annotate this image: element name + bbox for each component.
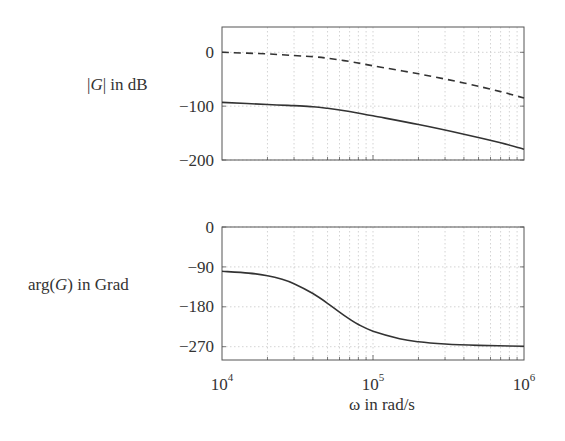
xtick-exponent: 4 bbox=[228, 371, 234, 383]
xtick-base: 10 bbox=[513, 375, 530, 394]
magnitude-solid-curve bbox=[222, 102, 524, 149]
ytick-bottom-minus180: −180 bbox=[179, 297, 214, 316]
ytick-top-minus200: −200 bbox=[179, 151, 214, 170]
magnitude-grid bbox=[222, 27, 524, 160]
xtick-1e4: 104 bbox=[211, 371, 234, 394]
ylabel-unit: in dB bbox=[106, 75, 148, 94]
xtick-exponent: 6 bbox=[530, 371, 536, 383]
xtick-1e6: 106 bbox=[513, 371, 536, 394]
xtick-base: 10 bbox=[362, 375, 379, 394]
ytick-top-minus100: −100 bbox=[179, 97, 214, 116]
ylabel-arg: arg( bbox=[28, 275, 55, 294]
xtick-1e5: 105 bbox=[362, 371, 385, 394]
ylabel-G-symbol: G bbox=[90, 75, 102, 94]
ylabel-unit: ) in Grad bbox=[67, 275, 129, 294]
magnitude-ylabel: |G| in dB bbox=[87, 75, 148, 94]
xtick-base: 10 bbox=[211, 375, 228, 394]
ytick-bottom-minus270: −270 bbox=[179, 337, 214, 356]
phase-grid bbox=[222, 227, 524, 360]
phase-ylabel: arg(G) in Grad bbox=[28, 275, 129, 294]
frequency-xlabel: ω in rad/s bbox=[349, 395, 415, 414]
ylabel-G-symbol: G bbox=[55, 275, 67, 294]
ytick-bottom-minus90: −90 bbox=[187, 258, 214, 277]
bode-plot-figure: 0 −100 −200 |G| in dB 0 −90 −180 −270 ar… bbox=[0, 0, 565, 441]
xtick-exponent: 5 bbox=[379, 371, 385, 383]
ytick-top-0: 0 bbox=[206, 43, 215, 62]
ytick-bottom-0: 0 bbox=[206, 218, 215, 237]
